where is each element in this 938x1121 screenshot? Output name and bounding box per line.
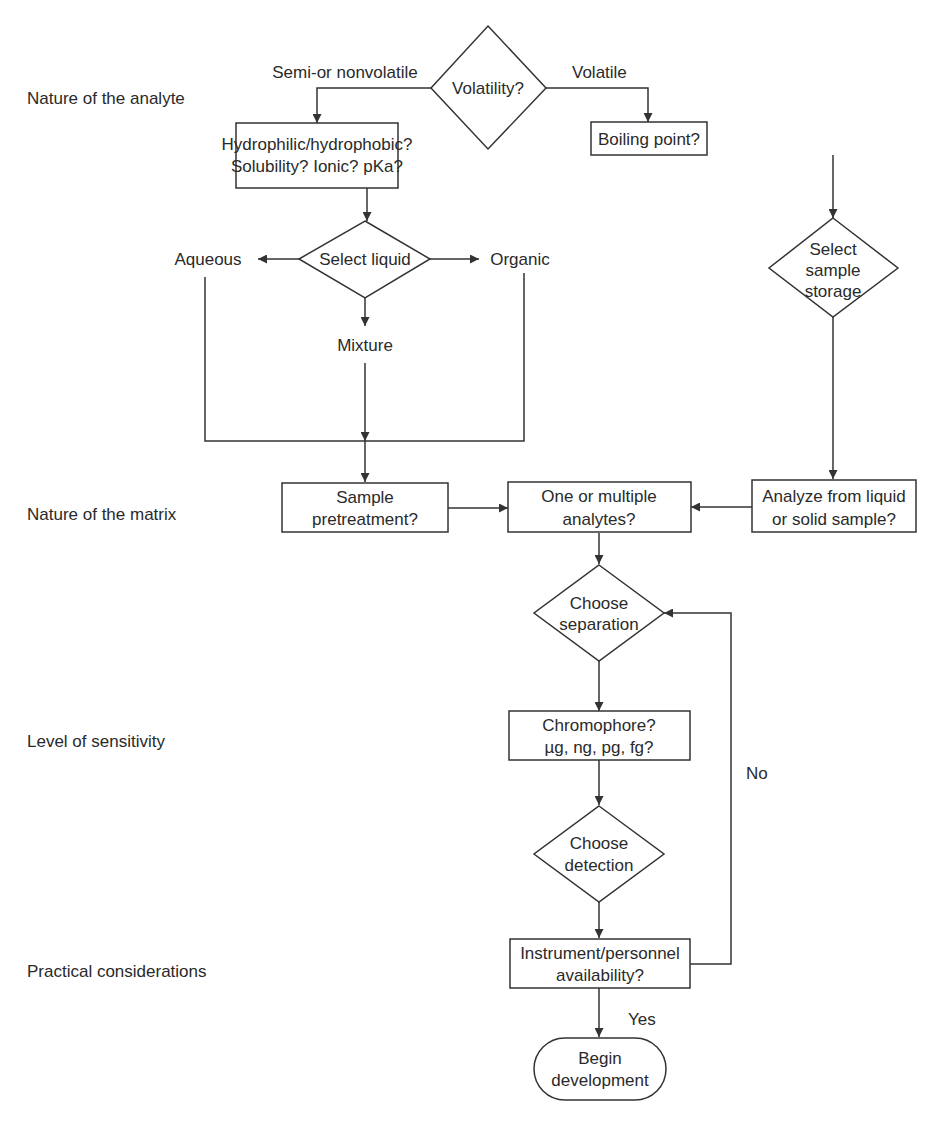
node-detection-line-2: detection <box>565 856 634 875</box>
stage-label-practical: Practical considerations <box>27 962 207 981</box>
node-begin-line-2: development <box>551 1071 649 1090</box>
node-instrument-line-2: availability? <box>556 966 644 985</box>
stage-label-matrix: Nature of the matrix <box>27 505 177 524</box>
node-select-liquid-text: Select liquid <box>319 250 411 269</box>
node-chromophore-line-2: µg, ng, pg, fg? <box>544 738 653 757</box>
node-analytes-line-2: analytes? <box>563 510 636 529</box>
node-pretreatment-line-2: pretreatment? <box>312 510 418 529</box>
edge-volatility-to-hydrophilic <box>317 88 431 123</box>
node-pretreatment-line-1: Sample <box>336 488 394 507</box>
node-select-liquid: Select liquid <box>299 221 430 298</box>
edge-label-volatile: Volatile <box>572 63 627 82</box>
edge-instrument-loop-no <box>664 613 731 964</box>
node-chromophore: Chromophore? µg, ng, pg, fg? <box>509 711 690 760</box>
node-aqueous: Aqueous <box>174 250 241 269</box>
node-instrument-line-1: Instrument/personnel <box>520 944 680 963</box>
node-hydrophilic-line-2: Solubility? Ionic? pKa? <box>231 157 403 176</box>
node-hydrophilic-line-1: Hydrophilic/hydrophobic? <box>222 135 413 154</box>
node-begin-line-1: Begin <box>578 1049 621 1068</box>
node-analyze-line-1: Analyze from liquid <box>762 487 906 506</box>
edge-volatility-to-boiling <box>546 88 648 122</box>
edge-label-semi-nonvolatile: Semi-or nonvolatile <box>272 63 418 82</box>
node-analyze-from: Analyze from liquid or solid sample? <box>752 480 916 532</box>
node-choose-detection: Choose detection <box>534 806 664 902</box>
node-boiling-point-text: Boiling point? <box>598 130 700 149</box>
node-volatility-text: Volatility? <box>452 79 524 98</box>
edge-label-yes: Yes <box>628 1010 656 1029</box>
node-analyze-line-2: or solid sample? <box>772 510 896 529</box>
node-analytes-line-1: One or multiple <box>541 487 656 506</box>
node-volatility: Volatility? <box>431 26 546 149</box>
method-development-flowchart: Nature of the analyte Nature of the matr… <box>0 0 938 1121</box>
stage-label-sensitivity: Level of sensitivity <box>27 732 165 751</box>
node-select-sample-storage: Select sample storage <box>769 218 898 317</box>
stage-label-analyte: Nature of the analyte <box>27 89 185 108</box>
node-sample-pretreatment: Sample pretreatment? <box>282 483 448 532</box>
node-mixture: Mixture <box>337 336 393 355</box>
node-chromophore-line-1: Chromophore? <box>542 716 655 735</box>
node-instrument-availability: Instrument/personnel availability? <box>510 939 690 988</box>
node-storage-line-1: Select <box>809 240 857 259</box>
node-detection-line-1: Choose <box>570 834 629 853</box>
node-storage-line-3: storage <box>805 282 862 301</box>
node-choose-separation: Choose separation <box>534 565 664 661</box>
node-analytes: One or multiple analytes? <box>508 482 691 532</box>
node-boiling-point: Boiling point? <box>591 122 707 155</box>
edge-label-no: No <box>746 764 768 783</box>
node-separation-line-2: separation <box>559 615 638 634</box>
node-organic: Organic <box>490 250 550 269</box>
node-storage-line-2: sample <box>806 261 861 280</box>
node-begin-development: Begin development <box>534 1038 666 1100</box>
node-hydrophilic: Hydrophilic/hydrophobic? Solubility? Ion… <box>222 123 413 188</box>
node-separation-line-1: Choose <box>570 594 629 613</box>
